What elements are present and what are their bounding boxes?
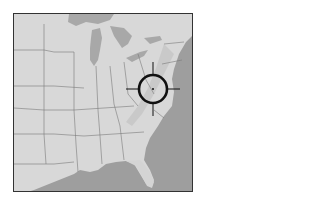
- crosshair-marker[interactable]: [126, 62, 180, 116]
- center-dot-icon: [152, 88, 154, 90]
